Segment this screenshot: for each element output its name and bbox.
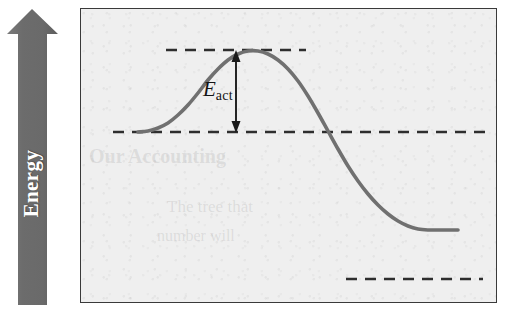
energy-axis: Energy bbox=[0, 0, 66, 320]
energy-diagram-figure: Energy Our Accounting The tree that numb… bbox=[0, 0, 510, 320]
activation-energy-arrow bbox=[232, 50, 241, 133]
up-arrow-icon bbox=[0, 0, 66, 320]
reaction-energy-curve bbox=[138, 51, 458, 230]
plot-frame: Our Accounting The tree that number will… bbox=[80, 8, 497, 303]
reaction-coordinate-plot bbox=[81, 9, 495, 301]
